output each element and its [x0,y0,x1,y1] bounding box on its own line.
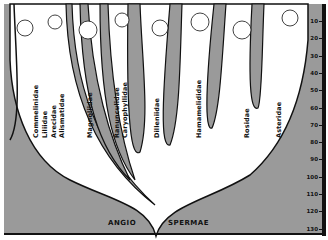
scale-tick-label: 80 [310,139,318,145]
taxon-label: Commelinidae [32,85,40,138]
scale-tick-mark [319,21,323,22]
scale-tick-mark [319,108,323,109]
scale-tick-mark [319,177,323,178]
scale-tick-mark [319,211,323,212]
scale-tick-label: 100 [307,174,318,180]
scale-tick-label: 60 [310,105,318,111]
scale-tick-label: 30 [310,53,318,59]
scale-tick-mark [319,73,323,74]
scale-tick-label: 120 [307,208,318,214]
taxon-label: Rosidae [243,108,251,138]
scale-tick-label: 40 [310,70,318,76]
scale-tick-mark [319,229,323,230]
scale-tick-mark [319,159,323,160]
taxon-label: Caryophyllidae [121,82,129,138]
scale-tick-label: 70 [310,122,318,128]
title-angio: ANGIO [108,219,136,227]
title-spermae: SPERMAE [168,219,209,227]
scale-tick-label: 110 [307,191,318,197]
scale-tick-label: 130 [307,226,318,232]
taxon-label: Liliidae [41,111,49,138]
taxon-label: Dilleniidae [153,98,161,138]
scale-tick-label: 20 [310,35,318,41]
scale-tick-label: 10 [310,18,318,24]
taxon-label: Ranunculidae [113,87,121,138]
scale-tick-mark [319,38,323,39]
scale-tick-mark [319,56,323,57]
scale-tick-mark [319,125,323,126]
taxon-label: Arecidae [50,105,58,138]
taxon-label: Alismatidae [58,94,66,138]
scale-tick-mark [319,142,323,143]
taxon-label: Asteridae [275,102,283,138]
scale-tick-mark [319,90,323,91]
taxon-label: Magnoliidae [86,92,94,138]
taxon-label: Hamamelididae [195,80,203,138]
scale-tick-mark [319,194,323,195]
scale-tick-label: 90 [310,156,318,162]
scale-tick-label: 50 [310,87,318,93]
phylogeny-diagram: CommelinidaeLiliidaeArecidaeAlismatidaeM… [0,0,328,240]
